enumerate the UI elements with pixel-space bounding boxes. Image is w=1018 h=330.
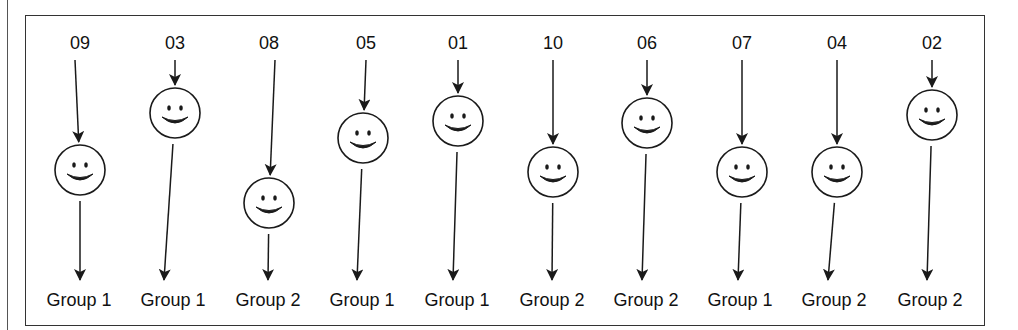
group-label: Group 2	[801, 290, 866, 310]
smiley-face-icon	[528, 147, 578, 197]
smiley-face-icon	[907, 90, 957, 140]
assignment-arrow-out	[738, 203, 741, 280]
smiley-face-icon	[433, 96, 483, 146]
participant-column-02: 02Group 2	[897, 33, 962, 310]
assignment-arrow-out	[828, 203, 834, 280]
participant-id-label: 01	[448, 33, 468, 53]
group-label: Group 2	[613, 290, 678, 310]
assignment-arrow-out	[552, 203, 553, 280]
participant-id-label: 05	[356, 33, 376, 53]
participant-id-label: 06	[637, 33, 657, 53]
participant-column-05: 05Group 1	[329, 33, 394, 310]
group-label: Group 1	[707, 290, 772, 310]
group-label: Group 1	[46, 290, 111, 310]
assignment-arrow-out	[164, 144, 173, 280]
participant-column-08: 08Group 2	[235, 33, 300, 310]
participant-column-01: 01Group 1	[424, 33, 489, 310]
assignment-arrow-out	[642, 154, 646, 280]
group-label: Group 2	[519, 290, 584, 310]
smiley-face-icon	[338, 113, 388, 163]
participant-id-label: 08	[259, 33, 279, 53]
group-label: Group 1	[140, 290, 205, 310]
group-label: Group 1	[329, 290, 394, 310]
participant-id-label: 07	[732, 33, 752, 53]
group-label: Group 2	[897, 290, 962, 310]
participant-column-09: 09Group 1	[46, 33, 111, 310]
group-label: Group 1	[424, 290, 489, 310]
smiley-face-icon	[812, 147, 862, 197]
assignment-arrow-in	[364, 60, 366, 110]
participant-id-label: 04	[827, 33, 847, 53]
assignment-arrow-out	[268, 234, 269, 280]
participant-id-label: 03	[165, 33, 185, 53]
random-assignment-diagram: 09Group 103Group 108Group 205Group 101Gr…	[0, 0, 1018, 330]
participant-column-03: 03Group 1	[140, 33, 205, 310]
participant-column-10: 10Group 2	[519, 33, 584, 310]
participant-column-04: 04Group 2	[801, 33, 866, 310]
assignment-arrow-out	[357, 169, 362, 280]
smiley-face-icon	[55, 145, 105, 195]
assignment-arrow-out	[453, 152, 457, 280]
smiley-face-icon	[717, 147, 767, 197]
participant-id-label: 02	[922, 33, 942, 53]
participant-column-06: 06Group 2	[613, 33, 678, 310]
participant-id-label: 09	[70, 33, 90, 53]
assignment-arrow-in	[270, 60, 275, 175]
assignment-arrow-in	[75, 60, 79, 142]
smiley-face-icon	[244, 178, 294, 228]
participant-id-label: 10	[543, 33, 563, 53]
assignment-arrow-out	[927, 146, 931, 280]
group-label: Group 2	[235, 290, 300, 310]
participant-column-07: 07Group 1	[707, 33, 772, 310]
smiley-face-icon	[150, 88, 200, 138]
smiley-face-icon	[622, 98, 672, 148]
